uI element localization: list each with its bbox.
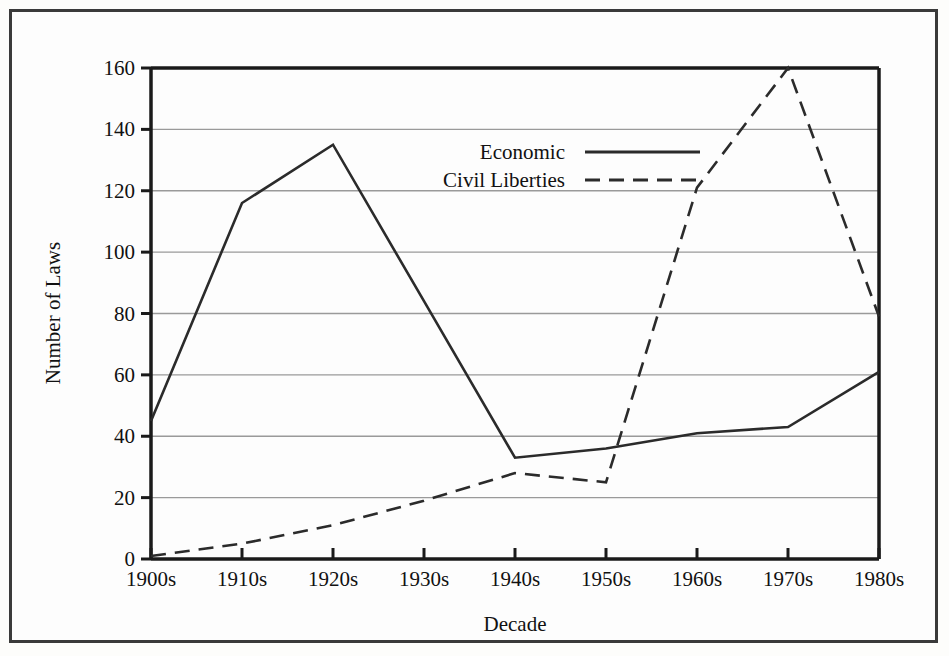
x-axis-ticks: 1900s1910s1920s1930s1940s1950s1960s1970s… — [126, 548, 904, 591]
x-tick-label: 1940s — [490, 567, 540, 591]
y-tick-label: 100 — [104, 240, 136, 264]
x-tick-label: 1960s — [672, 567, 722, 591]
x-axis-title: Decade — [484, 612, 547, 636]
y-tick-label: 140 — [104, 117, 136, 141]
y-tick-label: 120 — [104, 179, 136, 203]
figure-root: 020406080100120140160 1900s1910s1920s193… — [0, 0, 949, 656]
line-chart: 020406080100120140160 1900s1910s1920s193… — [0, 0, 949, 656]
x-tick-label: 1970s — [763, 567, 813, 591]
x-tick-label: 1920s — [308, 567, 358, 591]
y-tick-label: 40 — [114, 424, 135, 448]
x-tick-label: 1900s — [126, 567, 176, 591]
y-axis-title: Number of Laws — [41, 242, 65, 384]
legend-label-civil-liberties: Civil Liberties — [443, 168, 565, 192]
x-tick-label: 1930s — [399, 567, 449, 591]
y-tick-label: 160 — [104, 56, 136, 80]
x-tick-label: 1980s — [854, 567, 904, 591]
y-axis-ticks: 020406080100120140160 — [104, 56, 152, 571]
y-tick-label: 60 — [114, 363, 135, 387]
x-tick-label: 1950s — [581, 567, 631, 591]
x-tick-label: 1910s — [217, 567, 267, 591]
plot-container: 020406080100120140160 1900s1910s1920s193… — [0, 0, 949, 656]
legend: EconomicCivil Liberties — [443, 140, 700, 192]
legend-label-economic: Economic — [480, 140, 565, 164]
y-tick-label: 80 — [114, 302, 135, 326]
y-tick-label: 20 — [114, 486, 135, 510]
